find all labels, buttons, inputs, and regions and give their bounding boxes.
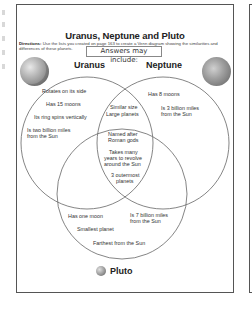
uranus-item: Rotates on its side — [42, 88, 86, 94]
pluto-item: Smallest planet — [77, 226, 114, 232]
common-item: planets — [116, 178, 133, 184]
pluto-item: from the Sun — [130, 218, 161, 224]
common-item: Roman gods — [108, 137, 139, 143]
pluto-item: Farthest from the Sun — [93, 240, 145, 246]
shared-item: Similar size — [110, 104, 138, 110]
neptune-item: Has 8 moons — [148, 91, 180, 97]
neptune-item: from the Sun — [161, 111, 192, 117]
uranus-item: Its ring spins vertically — [34, 114, 87, 120]
uranus-item: from the Sun — [27, 133, 58, 139]
uranus-item: Has 15 moons — [46, 101, 81, 107]
common-item: around the Sun — [104, 161, 141, 167]
shared-item: Large planets — [106, 111, 139, 117]
pluto-item: Has one moon — [68, 213, 103, 219]
